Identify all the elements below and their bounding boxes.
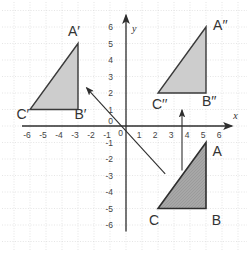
y-axis-label: y [131, 23, 137, 34]
x-tick-label: 5 [201, 130, 206, 140]
vertex-label: C′′ [152, 96, 168, 112]
coordinate-plane: xy-6-5-4-3-2-101234566543210-1-2-3-4-5-6… [0, 0, 249, 253]
y-tick-label: 3 [108, 72, 113, 82]
y-tick-label: -4 [105, 187, 113, 197]
triangle-a-prime-shape [30, 44, 78, 110]
vertex-label: A [213, 143, 223, 159]
x-tick-label: -3 [71, 130, 79, 140]
geometry-figure: xy-6-5-4-3-2-101234566543210-1-2-3-4-5-6… [0, 0, 249, 253]
y-tick-label: -3 [105, 171, 113, 181]
vertex-label: A′ [68, 23, 80, 39]
y-tick-label: 2 [108, 88, 113, 98]
y-tick-label: -1 [105, 138, 113, 148]
x-tick-label: 4 [185, 130, 190, 140]
vertex-label: B [212, 212, 221, 228]
x-axis-label: x [232, 110, 238, 121]
x-tick-label: 3 [169, 130, 174, 140]
x-tick-label: -2 [87, 130, 95, 140]
vertex-label: A′′ [213, 17, 228, 33]
y-tick-label: 0 [108, 116, 113, 126]
y-tick-label: 5 [108, 39, 113, 49]
triangle-a-prime: A′B′C′ [16, 23, 86, 122]
vertex-label: B′ [74, 106, 86, 122]
x-tick-label: 1 [137, 130, 142, 140]
x-tick-label: -5 [39, 130, 47, 140]
vertex-label: B′′ [202, 93, 217, 109]
y-tick-label: -2 [105, 154, 113, 164]
vertex-label: C′ [16, 106, 29, 122]
x-tick-label: 6 [217, 130, 222, 140]
x-tick-label: -6 [23, 130, 31, 140]
x-tick-label: 0 [118, 128, 123, 138]
y-tick-label: 4 [108, 55, 113, 65]
y-tick-label: -5 [105, 204, 113, 214]
x-tick-label: -4 [55, 130, 63, 140]
y-tick-label: -6 [105, 220, 113, 230]
triangle-a: ABC [149, 143, 223, 229]
vertex-label: C [149, 212, 159, 228]
triangle-a-double-prime-shape [158, 27, 206, 93]
y-tick-label: 6 [108, 22, 113, 32]
x-tick-label: 2 [153, 130, 158, 140]
